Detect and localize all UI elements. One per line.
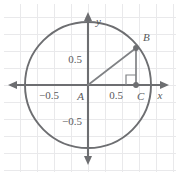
point-label-C: C	[137, 90, 145, 102]
y-tick-label-negative-half: −0.5	[62, 115, 82, 127]
x-tick-label-positive-half: 0.5	[109, 89, 123, 101]
point-marker-C	[133, 82, 139, 88]
y-tick-label-positive-half: 0.5	[68, 53, 82, 65]
x-axis-label: x	[157, 89, 163, 101]
figure-canvas: −0.5 0.5 0.5 −0.5 x y A B C	[0, 0, 180, 176]
math-figure-unit-circle: −0.5 0.5 0.5 −0.5 x y A B C	[0, 0, 180, 176]
figure-background	[0, 0, 180, 176]
y-axis-label: y	[95, 15, 101, 27]
point-label-B: B	[143, 31, 150, 43]
x-tick-label-negative-half: −0.5	[39, 89, 59, 101]
point-marker-B	[133, 45, 139, 51]
point-label-A: A	[76, 90, 84, 102]
